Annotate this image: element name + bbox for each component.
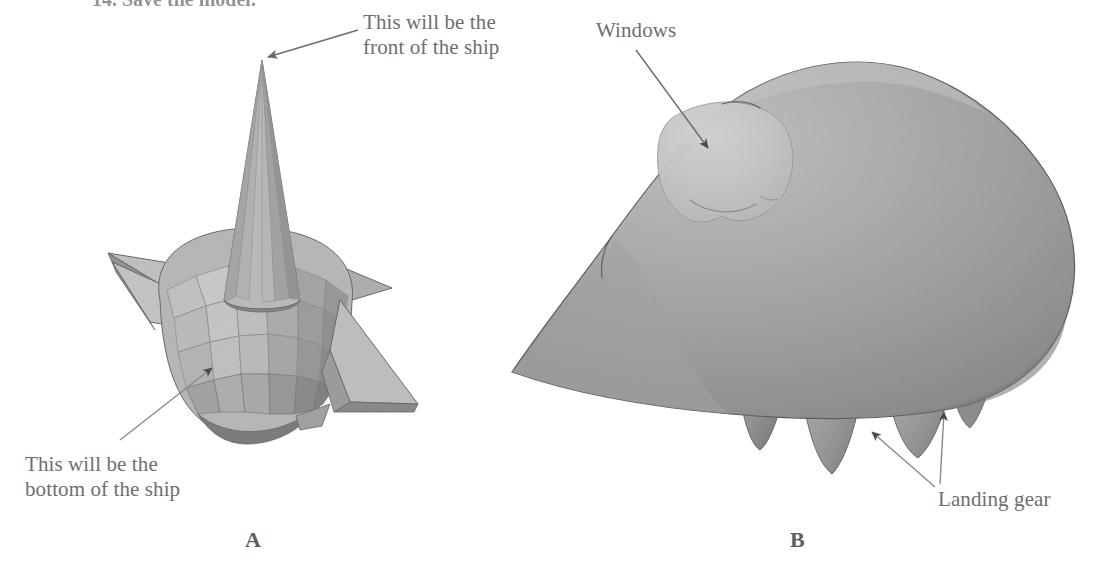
leader-front-of-ship	[268, 30, 358, 57]
panel-label-b: B	[790, 527, 805, 553]
leader-landing-gear-2	[940, 412, 944, 484]
model-a-fin-right	[322, 300, 418, 412]
panel-label-a: A	[245, 527, 261, 553]
panel-b-model	[512, 62, 1075, 474]
panel-a-model	[108, 60, 418, 444]
annotation-front-of-ship: This will be the front of the ship	[363, 10, 499, 60]
annotation-windows: Windows	[596, 18, 676, 43]
model-b-windows	[658, 102, 793, 222]
figure-container: 14. Save the model.	[0, 0, 1099, 579]
annotation-bottom-of-ship: This will be the bottom of the ship	[25, 452, 180, 502]
model-a-cone	[224, 60, 300, 312]
model-b-hull	[512, 62, 1075, 418]
annotation-landing-gear: Landing gear	[938, 487, 1051, 512]
